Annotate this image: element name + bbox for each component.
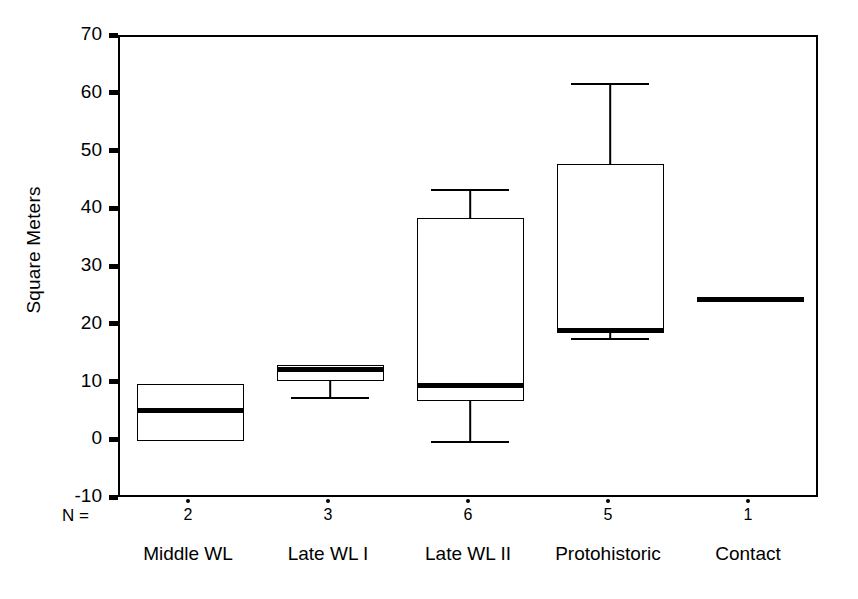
x-axis-tick-mark (606, 499, 610, 503)
median-line (277, 367, 384, 372)
y-axis-tick-mark (109, 495, 118, 500)
category-count-label: 2 (158, 506, 218, 524)
y-axis-tick-mark (109, 264, 118, 269)
lower-whisker-line (469, 401, 471, 441)
x-axis-tick-mark (746, 499, 750, 503)
lower-whisker-line (329, 381, 331, 397)
y-axis-tick-mark (109, 206, 118, 211)
x-axis-category-label: Contact (658, 543, 838, 565)
y-axis-tick-label: 60 (81, 81, 102, 103)
x-axis-tick-mark (186, 499, 190, 503)
category-count-label: 5 (578, 506, 638, 524)
box-iqr-rect (417, 218, 524, 401)
lower-whisker-cap (431, 441, 508, 443)
category-count-label: 6 (438, 506, 498, 524)
median-line (417, 383, 524, 388)
y-axis-tick-label: 20 (81, 312, 102, 334)
plot-area (118, 35, 818, 497)
median-line (137, 408, 244, 413)
y-axis-tick-mark (109, 148, 118, 153)
y-axis-tick-mark (109, 437, 118, 442)
y-axis-tick-label: 40 (81, 196, 102, 218)
x-axis-tick-mark (466, 499, 470, 503)
y-axis-tick-label: 70 (81, 23, 102, 45)
y-axis-tick-label: 0 (91, 427, 102, 449)
category-count-label: 1 (718, 506, 778, 524)
median-line (697, 297, 804, 302)
y-axis-tick-mark (109, 33, 118, 38)
y-axis-tick-mark (109, 379, 118, 384)
y-axis-tick-label: -10 (75, 485, 102, 507)
y-axis-tick-label: 50 (81, 139, 102, 161)
x-axis-tick-mark (326, 499, 330, 503)
category-count-label: 3 (298, 506, 358, 524)
y-axis-tick-mark (109, 321, 118, 326)
y-axis-title-text: Square Meters (23, 186, 45, 313)
upper-whisker-cap (431, 189, 508, 191)
box-iqr-rect (557, 164, 664, 330)
lower-whisker-cap (571, 338, 648, 340)
y-axis-tick-label: 30 (81, 254, 102, 276)
y-axis-tick-mark (109, 90, 118, 95)
n-row-label: N = (62, 506, 89, 526)
box-plot-figure: Square Meters 706050403020100-10 N = 2Mi… (0, 0, 858, 599)
upper-whisker-cap (571, 83, 648, 85)
lower-whisker-cap (291, 397, 368, 399)
upper-whisker-line (469, 189, 471, 218)
median-line (557, 328, 664, 333)
y-axis-title: Square Meters (14, 0, 54, 500)
upper-whisker-line (609, 83, 611, 164)
y-axis-tick-label: 10 (81, 370, 102, 392)
